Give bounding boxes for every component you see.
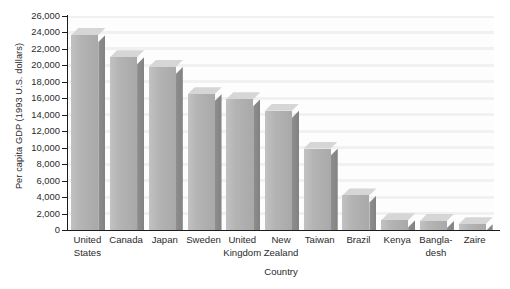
bar xyxy=(226,92,260,230)
y-tick-label: 10,000 xyxy=(18,143,60,153)
bar-top-face xyxy=(381,213,415,220)
x-tick-label-line1: Taiwan xyxy=(305,234,335,245)
bar-side-face xyxy=(215,94,222,230)
bar xyxy=(265,104,299,230)
bar-front-face xyxy=(149,67,176,230)
y-tick-label: 16,000 xyxy=(18,93,60,103)
bar-top-face xyxy=(149,60,183,67)
bar-top-face xyxy=(459,217,493,224)
x-axis-title: Country xyxy=(68,266,494,277)
bar-front-face xyxy=(304,149,331,230)
y-tick-label: 18,000 xyxy=(18,77,60,87)
bar xyxy=(110,50,144,230)
bar xyxy=(459,217,493,230)
x-tick-label-line1: Sweden xyxy=(186,234,221,245)
x-axis-line xyxy=(62,230,500,232)
x-tick-label-line2: States xyxy=(64,246,111,259)
bar-top-face xyxy=(265,104,299,111)
bar xyxy=(420,214,454,230)
bar xyxy=(304,142,338,230)
y-tick-label: 24,000 xyxy=(18,27,60,37)
x-tick-label-line2: desh xyxy=(413,246,460,259)
bar-side-face xyxy=(176,67,183,230)
y-tick-label: 20,000 xyxy=(18,60,60,70)
x-tick-label-line1: Bangla- xyxy=(419,234,452,245)
x-tick-label-line1: Brazil xyxy=(346,234,370,245)
x-tick-label-line1: Canada xyxy=(109,234,143,245)
x-tick-label-line1: Zaire xyxy=(464,234,486,245)
gridline xyxy=(68,31,494,34)
x-tick-label-line2: Zealand xyxy=(258,246,305,259)
bar xyxy=(149,60,183,230)
x-tick-label-line1: Kenya xyxy=(384,234,411,245)
bar-side-face xyxy=(137,57,144,230)
bar-top-face xyxy=(304,142,338,149)
bar-side-face xyxy=(369,195,376,230)
plot-area xyxy=(68,16,494,230)
bar-front-face xyxy=(188,94,215,230)
bar xyxy=(381,213,415,230)
gridline xyxy=(68,16,494,18)
bar-side-face xyxy=(331,149,338,230)
bar-front-face xyxy=(226,99,253,230)
x-tick-label-line1: Japan xyxy=(152,234,178,245)
y-tick-label: 6,000 xyxy=(18,176,60,186)
bar-front-face xyxy=(71,35,98,230)
y-tick-label: 12,000 xyxy=(18,126,60,136)
x-tick-label-line1: United xyxy=(73,234,101,245)
bar-top-face xyxy=(188,87,222,94)
y-tick-label: 26,000 xyxy=(18,11,60,21)
bar-top-face xyxy=(71,28,105,35)
y-tick-label: 0 xyxy=(18,225,60,235)
bar-top-face xyxy=(420,214,454,221)
y-tick-label: 2,000 xyxy=(18,209,60,219)
bar-top-face xyxy=(342,188,376,195)
bar-top-face xyxy=(226,92,260,99)
bar-chart-figure: Per capita GDP (1993 U.S. dollars) 02,00… xyxy=(0,0,510,289)
bar-front-face xyxy=(265,111,292,230)
y-axis-tick-labels: 02,0004,0006,0008,00010,00012,00014,0001… xyxy=(18,10,60,236)
bar-side-face xyxy=(253,99,260,230)
bar-side-face xyxy=(98,35,105,230)
y-tick-label: 4,000 xyxy=(18,192,60,202)
y-tick-label: 14,000 xyxy=(18,110,60,120)
y-axis-line xyxy=(67,15,68,231)
x-axis-tick-labels: UnitedStatesCanadaJapanSwedenUnitedKingd… xyxy=(68,233,494,267)
bar-side-face xyxy=(292,111,299,230)
y-tick-label: 8,000 xyxy=(18,159,60,169)
bar-top-face xyxy=(110,50,144,57)
bar xyxy=(342,188,376,230)
bar-front-face xyxy=(110,57,137,230)
bar-front-face xyxy=(342,195,369,230)
bar xyxy=(188,87,222,230)
y-tick-label: 22,000 xyxy=(18,44,60,54)
x-tick-label-line1: New xyxy=(271,234,290,245)
x-tick-label-line1: United xyxy=(228,234,256,245)
bar xyxy=(71,28,105,230)
x-tick-label: Zaire xyxy=(451,233,498,246)
